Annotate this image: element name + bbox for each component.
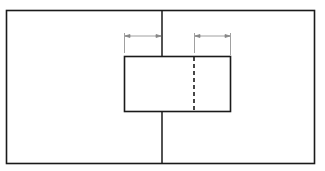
left-arrow-start-icon [125,35,130,38]
right-arrow-end-icon [225,35,230,38]
right-dimension [195,33,231,55]
left-dimension [125,33,162,53]
left-arrow-end-icon [156,35,161,38]
inner-rectangle [125,57,231,112]
right-arrow-start-icon [195,35,200,38]
diagram-canvas [0,0,325,171]
